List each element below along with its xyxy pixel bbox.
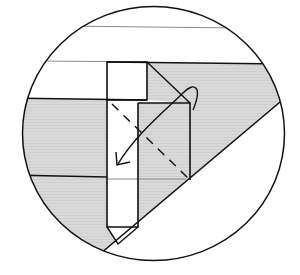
thin-line-second xyxy=(30,61,107,62)
origami-diagram xyxy=(0,0,300,275)
shaded-region-left xyxy=(10,98,118,252)
upper-square xyxy=(107,62,147,100)
